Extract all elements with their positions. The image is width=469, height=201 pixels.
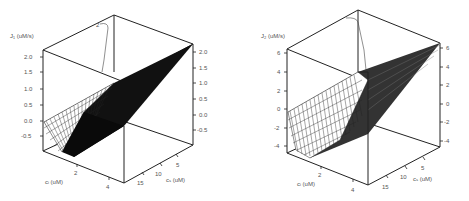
svg-text:-4: -4 xyxy=(274,143,280,149)
svg-text:-0.5: -0.5 xyxy=(21,133,32,139)
right-x-axis: 2 4 cᵢ (uM) xyxy=(297,166,355,193)
svg-text:4: 4 xyxy=(277,69,281,75)
svg-text:-0.5: -0.5 xyxy=(197,127,208,133)
svg-text:0: 0 xyxy=(277,106,281,112)
svg-text:0.5: 0.5 xyxy=(24,102,33,108)
right-z-axis-label: J₂ (uM/s) xyxy=(261,33,285,39)
svg-text:-2: -2 xyxy=(274,125,280,131)
svg-text:15: 15 xyxy=(382,184,389,190)
left-x-axis-label: cᵢ (uM) xyxy=(45,179,63,185)
right-annotation-curve xyxy=(346,18,366,70)
svg-text:5: 5 xyxy=(421,165,425,171)
svg-text:4: 4 xyxy=(351,187,355,193)
svg-text:2: 2 xyxy=(446,82,450,88)
left-z-axis: J₁ (uM/s) 2.0 1.5 1.0 0.5 0.0 -0.5 xyxy=(10,33,43,139)
right-z-axis: J₂ (uM/s) 6 4 2 0 -2 -4 xyxy=(261,33,287,149)
svg-text:1.5: 1.5 xyxy=(24,69,33,75)
figure: 2 xyxy=(0,0,469,201)
left-annotation-curve xyxy=(100,24,108,73)
left-annotation: 2 xyxy=(96,22,100,28)
svg-text:15: 15 xyxy=(137,180,144,186)
svg-text:2.0: 2.0 xyxy=(199,49,208,55)
left-y-axis-label: cₛ (uM) xyxy=(166,177,185,183)
svg-text:5: 5 xyxy=(176,162,180,168)
svg-text:10: 10 xyxy=(155,171,162,177)
left-z-axis-label: J₁ (uM/s) xyxy=(10,33,34,39)
svg-text:1.0: 1.0 xyxy=(24,86,33,92)
right-surface-mesh xyxy=(288,43,440,158)
svg-text:2: 2 xyxy=(74,170,78,176)
svg-text:-4: -4 xyxy=(444,138,450,144)
svg-text:1.0: 1.0 xyxy=(199,80,208,86)
left-y-axis: 5 10 15 cₛ (uM) xyxy=(137,154,185,186)
svg-text:0.0: 0.0 xyxy=(199,112,208,118)
svg-text:6: 6 xyxy=(277,50,281,56)
left-surface-plot: 2 xyxy=(10,15,208,190)
svg-text:10: 10 xyxy=(400,174,407,180)
svg-text:1.5: 1.5 xyxy=(199,65,208,71)
left-z-axis-right: 2.0 1.5 1.0 0.5 0.0 -0.5 xyxy=(193,49,208,133)
right-x-axis-label: cᵢ (uM) xyxy=(297,181,315,187)
svg-text:2: 2 xyxy=(318,172,322,178)
left-surface-mesh xyxy=(44,44,193,157)
svg-text:2.0: 2.0 xyxy=(24,54,33,60)
right-surface-plot: J₂ (uM/s) 6 4 2 0 -2 -4 6 4 2 0 -2 - xyxy=(261,10,450,193)
right-y-axis-label: cₛ (uM) xyxy=(413,176,432,182)
svg-text:0.0: 0.0 xyxy=(24,118,33,124)
svg-text:-2: -2 xyxy=(444,119,450,125)
svg-text:4: 4 xyxy=(446,64,450,70)
svg-text:0.5: 0.5 xyxy=(199,96,208,102)
left-x-axis: 2 4 cᵢ (uM) xyxy=(45,164,110,190)
svg-text:6: 6 xyxy=(446,45,450,51)
svg-text:0: 0 xyxy=(446,101,450,107)
svg-text:4: 4 xyxy=(106,184,110,190)
svg-text:2: 2 xyxy=(277,88,281,94)
right-z-axis-right: 6 4 2 0 -2 -4 xyxy=(440,45,450,144)
